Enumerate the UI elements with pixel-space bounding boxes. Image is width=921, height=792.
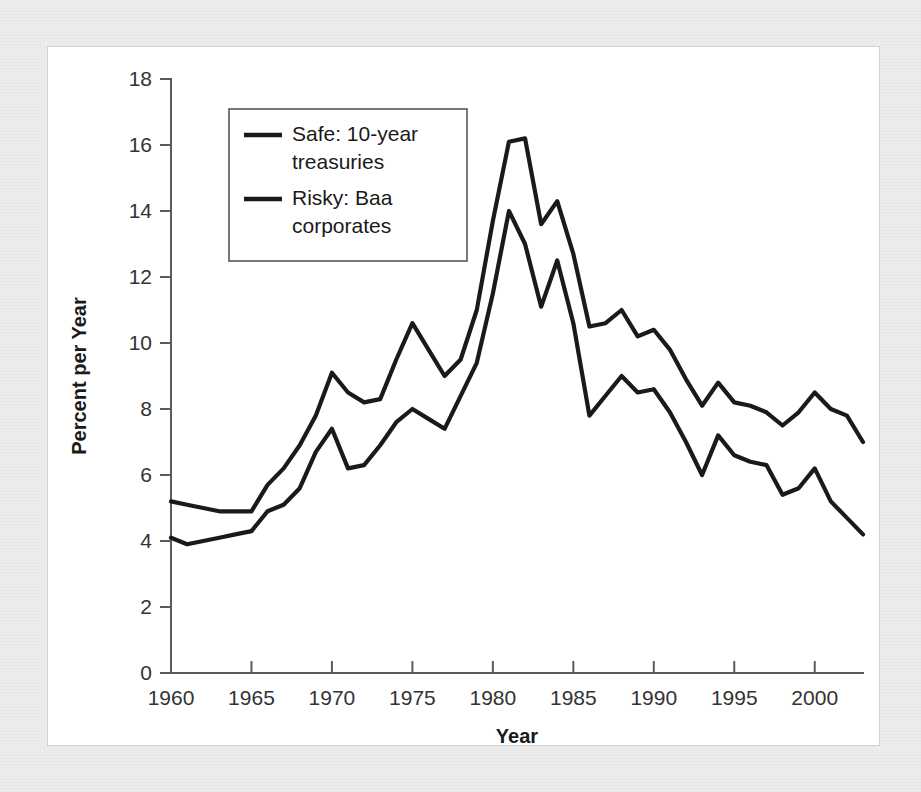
x-tick-label: 1995 xyxy=(711,686,758,709)
y-tick-label: 6 xyxy=(140,463,152,486)
y-tick-label: 16 xyxy=(129,133,152,156)
scanned-page: 0246810121416181960196519701975198019851… xyxy=(0,0,921,792)
x-tick-label: 1970 xyxy=(309,686,356,709)
y-tick-label: 12 xyxy=(129,265,152,288)
y-tick-label: 0 xyxy=(140,661,152,684)
y-tick-label: 4 xyxy=(140,529,152,552)
legend-label-risky-baa-line2: corporates xyxy=(292,214,391,237)
interest-rate-line-chart: 0246810121416181960196519701975198019851… xyxy=(48,47,881,747)
legend-label-risky-baa: Risky: Baa xyxy=(292,186,393,209)
x-tick-label: 1985 xyxy=(550,686,597,709)
y-tick-label: 2 xyxy=(140,595,152,618)
y-tick-label: 14 xyxy=(129,199,153,222)
y-tick-label: 8 xyxy=(140,397,152,420)
y-tick-label: 18 xyxy=(129,67,152,90)
legend-label-safe-treasuries: Safe: 10-year xyxy=(292,122,418,145)
y-axis-title: Percent per Year xyxy=(68,297,90,455)
x-tick-label: 2000 xyxy=(791,686,838,709)
x-tick-label: 1965 xyxy=(228,686,275,709)
x-tick-label: 1975 xyxy=(389,686,436,709)
figure-panel: 0246810121416181960196519701975198019851… xyxy=(47,46,880,746)
x-axis-title: Year xyxy=(496,725,538,747)
x-tick-label: 1980 xyxy=(470,686,517,709)
x-tick-label: 1990 xyxy=(630,686,677,709)
legend-label-safe-treasuries-line2: treasuries xyxy=(292,150,384,173)
x-tick-label: 1960 xyxy=(148,686,195,709)
y-tick-label: 10 xyxy=(129,331,152,354)
